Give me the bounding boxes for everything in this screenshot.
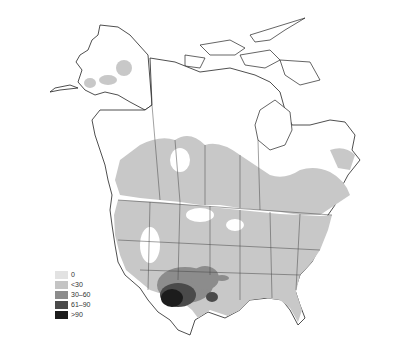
legend-swatch — [55, 311, 68, 319]
legend-swatch — [55, 301, 68, 309]
legend-label: 30–60 — [71, 290, 90, 300]
legend-item: >90 — [55, 310, 90, 320]
legend-item: <30 — [55, 280, 90, 290]
legend-label: >90 — [71, 310, 83, 320]
legend-item: 30–60 — [55, 290, 90, 300]
legend-swatch — [55, 281, 68, 289]
legend-label: 0 — [71, 270, 75, 280]
legend-item: 61–90 — [55, 300, 90, 310]
legend-item: 0 — [55, 270, 90, 280]
legend-label: <30 — [71, 280, 83, 290]
legend-label: 61–90 — [71, 300, 90, 310]
legend-swatch — [55, 271, 68, 279]
alaska — [50, 25, 152, 110]
legend-swatch — [55, 291, 68, 299]
legend: 0 <30 30–60 61–90 >90 — [55, 270, 90, 320]
